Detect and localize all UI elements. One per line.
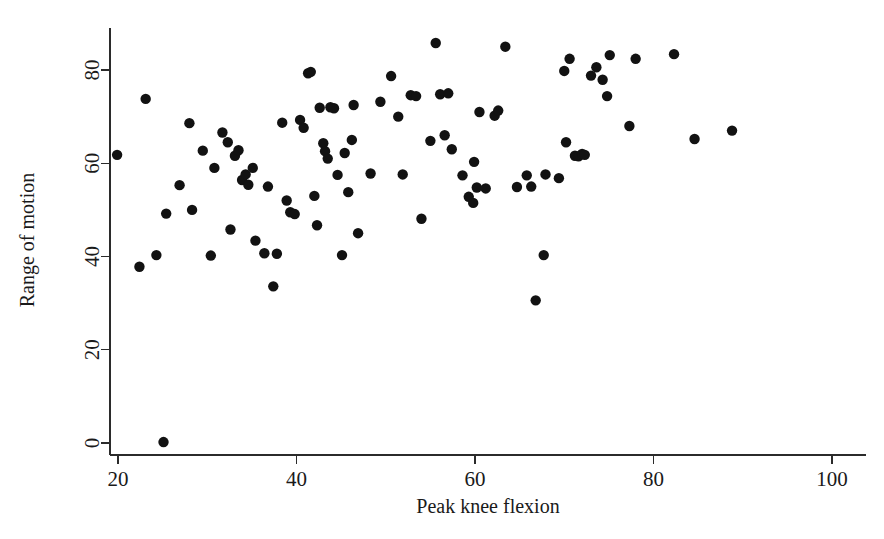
y-tick-label: 60 [80,153,104,174]
data-point [332,170,342,180]
data-point [540,169,550,179]
data-point [554,173,564,183]
x-axis-title: Peak knee flexion [416,495,559,517]
data-point [530,295,540,305]
data-point [187,205,197,215]
data-point [500,41,510,51]
data-point [365,168,375,178]
data-point [272,249,282,259]
data-point [315,103,325,113]
y-tick-label: 20 [80,339,104,360]
data-point [443,88,453,98]
data-point [431,38,441,48]
data-point [386,71,396,81]
x-tick-label: 20 [108,467,129,491]
data-point [312,220,322,230]
data-point [298,123,308,133]
x-tick-label: 60 [465,467,486,491]
data-point [493,105,503,115]
data-point [140,94,150,104]
data-point [223,137,233,147]
data-point [375,97,385,107]
data-point [447,144,457,154]
data-point [416,214,426,224]
x-tick-label: 80 [643,467,664,491]
data-point [481,183,491,193]
data-point [343,187,353,197]
data-point [263,181,273,191]
data-point [329,103,339,113]
data-point [348,100,358,110]
data-point [248,163,258,173]
data-point [112,150,122,160]
data-point [151,250,161,260]
data-point [198,145,208,155]
data-point [564,54,574,64]
data-point [309,191,319,201]
data-point [393,111,403,121]
x-tick-label: 100 [816,467,848,491]
data-point [281,195,291,205]
data-point [602,91,612,101]
data-point [353,228,363,238]
data-point [630,54,640,64]
data-point [268,281,278,291]
data-point [472,182,482,192]
y-tick-label: 0 [80,438,104,449]
data-point [233,145,243,155]
data-point [591,62,601,72]
data-point [277,117,287,127]
data-point [337,250,347,260]
data-point [727,125,737,135]
data-point [250,235,260,245]
data-point [561,137,571,147]
y-axis-title: Range of motion [16,173,39,307]
data-point [290,209,300,219]
data-point [323,153,333,163]
data-point [161,208,171,218]
y-tick-label: 80 [80,60,104,81]
data-point [134,262,144,272]
data-point [306,67,316,77]
data-point [217,127,227,137]
data-point [624,121,634,131]
data-point [259,248,269,258]
scatter-plot-figure: 020406080 20406080100 Peak knee flexion … [0,0,884,539]
data-point [225,224,235,234]
data-point [411,91,421,101]
data-point [206,250,216,260]
data-point [158,437,168,447]
data-point [474,107,484,117]
data-point [339,148,349,158]
plot-canvas: 020406080 20406080100 Peak knee flexion … [0,0,884,539]
data-point [526,181,536,191]
y-tick-label: 40 [80,246,104,267]
data-point [457,170,467,180]
plot-background [0,0,884,539]
data-point [539,250,549,260]
data-point [184,118,194,128]
data-point [347,135,357,145]
data-point [243,180,253,190]
data-point [174,180,184,190]
data-point [580,150,590,160]
data-point [522,170,532,180]
data-point [398,169,408,179]
data-point [669,49,679,59]
x-tick-label: 40 [286,467,307,491]
data-point [605,50,615,60]
data-point [468,198,478,208]
data-point [559,66,569,76]
data-point [209,163,219,173]
data-point [512,182,522,192]
data-point [597,75,607,85]
data-point [469,157,479,167]
data-point [689,134,699,144]
data-point [425,136,435,146]
data-point [439,130,449,140]
